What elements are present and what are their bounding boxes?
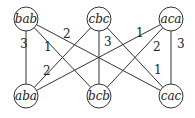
node-aba: aba [14, 84, 38, 108]
graph-canvas: 312231123babcbcacaababcbcac [0, 0, 195, 118]
node-label: bab [15, 12, 38, 26]
node-aca: aca [159, 7, 183, 31]
edge-weight-label: 2 [43, 64, 51, 78]
node-label: aca [160, 12, 181, 26]
edge-weight-label: 1 [154, 63, 162, 77]
node-label: cac [161, 89, 182, 103]
node-cbc: cbc [87, 7, 111, 31]
edge-weight-label: 1 [136, 26, 144, 40]
edge-weight-label: 3 [177, 37, 185, 51]
node-label: aba [15, 89, 37, 103]
edge-weight-label: 3 [20, 37, 28, 51]
bipartite-graph-diagram: 312231123babcbcacaababcbcac [0, 0, 195, 118]
edge-weight-label: 1 [44, 40, 52, 54]
edge-weight-label: 3 [104, 35, 112, 49]
node-bab: bab [14, 7, 38, 31]
edge-weight-label: 2 [153, 40, 161, 54]
node-label: bcb [88, 89, 110, 103]
node-bcb: bcb [87, 84, 111, 108]
node-cac: cac [159, 84, 183, 108]
edge-weight-label: 2 [63, 27, 71, 41]
node-label: cbc [88, 12, 109, 26]
